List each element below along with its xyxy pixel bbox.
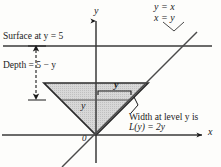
brace-label: y [114, 80, 118, 91]
inner-level-label: y [81, 101, 85, 112]
figure-container: Surface at y = 5 Depth = 5 − y y = x x =… [0, 0, 221, 167]
line-equation-secondary: x = y [154, 13, 175, 24]
diagram-svg [0, 0, 221, 167]
y-axis-label: y [94, 6, 98, 17]
depth-measure [28, 45, 46, 100]
x-axis-label: x [208, 127, 212, 138]
surface-label: Surface at y = 5 [3, 31, 63, 41]
width-annotation-line2: L(y) = 2y [129, 122, 198, 132]
width-annotation: Width at level y is L(y) = 2y [129, 112, 198, 133]
line-equation-label: y = x x = y [154, 2, 175, 24]
depth-label: Depth = 5 − y [3, 60, 56, 70]
width-annotation-line1: Width at level y is [129, 112, 198, 122]
origin-label: 0 [82, 134, 87, 144]
